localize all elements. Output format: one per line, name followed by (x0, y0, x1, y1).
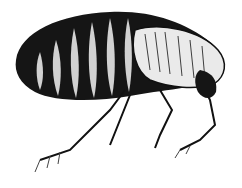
flea-illustration (0, 0, 242, 188)
leg-bristles (35, 146, 190, 172)
flea-drawing (0, 0, 242, 188)
